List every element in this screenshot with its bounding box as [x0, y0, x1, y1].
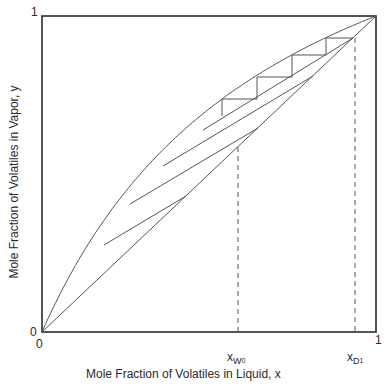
x-tick-1: 1	[375, 333, 382, 347]
diagonal-line	[42, 16, 376, 332]
y-tick-1: 1	[31, 5, 38, 19]
x-tick-0: 0	[36, 337, 43, 351]
x-axis-label: Mole Fraction of Volatiles in Liquid, x	[86, 367, 281, 381]
operating-line-4	[203, 38, 353, 130]
operating-line-2	[130, 128, 258, 204]
xd1-label: xD1	[347, 350, 363, 364]
operating-line-3	[163, 76, 313, 166]
xw0-label: xW0	[227, 350, 245, 364]
mccabe-thiele-diagram	[0, 0, 388, 391]
